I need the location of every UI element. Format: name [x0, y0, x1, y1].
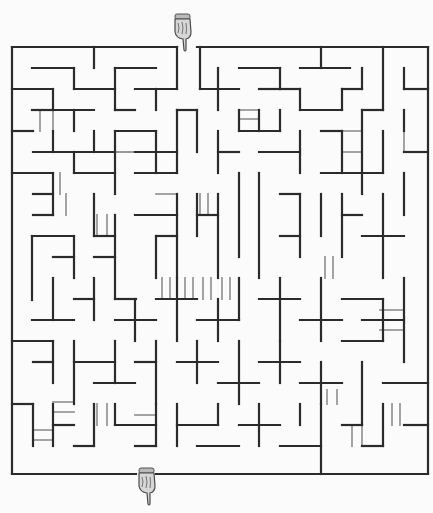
- maze-grid: [0, 0, 433, 513]
- exit-pointing-hand-icon: Finish: [136, 466, 158, 506]
- maze-puzzle: Maze Start Finish: [0, 0, 433, 513]
- maze-walls: [12, 47, 428, 474]
- entrance-pointing-hand-icon: Start: [172, 12, 194, 52]
